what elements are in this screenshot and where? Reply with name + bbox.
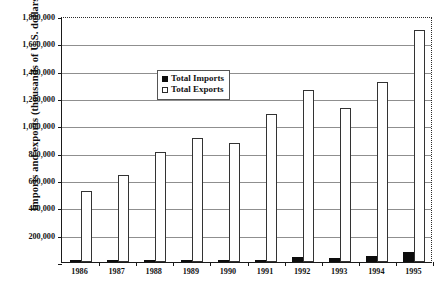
legend-label-exports: Total Exports <box>171 84 223 95</box>
y-axis-tick-label: 400,000 <box>0 204 55 213</box>
bar-imports-1991 <box>255 260 266 262</box>
y-axis-tick-label: 1,600,000 <box>0 40 55 49</box>
legend-item-total-imports: Total Imports <box>162 73 224 84</box>
x-axis-tick-mark <box>173 262 174 266</box>
y-axis-tick-label: 1,800,000 <box>0 13 55 22</box>
plot-area <box>61 17 432 263</box>
y-axis-tick-label: 800,000 <box>0 149 55 158</box>
legend-item-total-exports: Total Exports <box>162 84 224 95</box>
bar-exports-1992 <box>303 90 314 262</box>
x-axis-tick-mark <box>210 262 211 266</box>
bar-group-1994 <box>366 18 388 262</box>
chart-legend: Total Imports Total Exports <box>157 70 230 100</box>
x-axis-tick-mark <box>99 262 100 266</box>
bar-exports-1986 <box>81 191 92 262</box>
x-axis-tick-mark <box>396 262 397 266</box>
x-axis-tick-label-1995: 1995 <box>391 267 435 276</box>
bar-imports-1994 <box>366 256 377 262</box>
bar-exports-1993 <box>340 108 351 262</box>
y-axis-tick-label: 600,000 <box>0 177 55 186</box>
bar-imports-1988 <box>144 260 155 262</box>
bar-group-1993 <box>329 18 351 262</box>
bar-imports-1987 <box>107 260 118 262</box>
bar-imports-1995 <box>403 252 414 262</box>
bar-group-1991 <box>255 18 277 262</box>
bar-exports-1987 <box>118 175 129 262</box>
y-axis-tick-label: 1,400,000 <box>0 67 55 76</box>
y-axis-tick-label: 200,000 <box>0 231 55 240</box>
bar-group-1986 <box>70 18 92 262</box>
bar-group-1988 <box>144 18 166 262</box>
bar-imports-1992 <box>292 257 303 262</box>
x-axis-tick-mark <box>248 262 249 266</box>
bar-group-1990 <box>218 18 240 262</box>
x-axis-tick-mark <box>322 262 323 266</box>
legend-swatch-imports-icon <box>162 76 168 82</box>
bar-exports-1995 <box>414 30 425 262</box>
y-axis-title: Imports and exports (thousands of U.S. d… <box>29 0 40 223</box>
bar-group-1989 <box>181 18 203 262</box>
legend-swatch-exports-icon <box>162 87 168 93</box>
bar-imports-1990 <box>218 260 229 262</box>
bar-exports-1988 <box>155 152 166 262</box>
bar-group-1995 <box>403 18 425 262</box>
bar-exports-1994 <box>377 82 388 262</box>
bars-layer <box>62 18 431 262</box>
bar-exports-1990 <box>229 143 240 262</box>
legend-label-imports: Total Imports <box>171 73 224 84</box>
bar-exports-1991 <box>266 114 277 262</box>
bar-group-1987 <box>107 18 129 262</box>
x-axis-tick-mark <box>433 262 434 266</box>
bar-chart-figure: Imports and exports (thousands of U.S. d… <box>0 0 439 290</box>
bar-group-1992 <box>292 18 314 262</box>
bar-imports-1989 <box>181 260 192 262</box>
x-axis-tick-mark <box>136 262 137 266</box>
bar-imports-1986 <box>70 260 81 262</box>
bar-exports-1989 <box>192 138 203 262</box>
bar-imports-1993 <box>329 258 340 262</box>
y-axis-tick-mark <box>58 264 62 265</box>
y-axis-tick-label: 1,000,000 <box>0 122 55 131</box>
y-axis-tick-label: 1,200,000 <box>0 95 55 104</box>
x-axis-tick-mark <box>359 262 360 266</box>
x-axis-tick-mark <box>285 262 286 266</box>
